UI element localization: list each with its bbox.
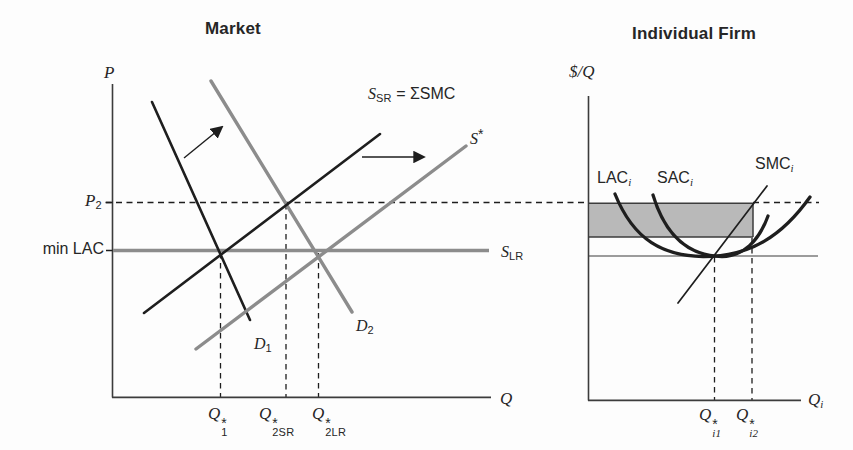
market-y-ticks bbox=[106, 203, 113, 251]
market-panel bbox=[106, 81, 589, 397]
market-axes bbox=[112, 84, 491, 397]
q2sr-label: Q*2SR bbox=[259, 405, 294, 438]
d1-label: D1 bbox=[254, 335, 272, 354]
firm-title: Individual Firm bbox=[614, 25, 774, 44]
sac-label: SACi bbox=[657, 169, 693, 188]
firm-x-axis-label: Qi bbox=[808, 391, 824, 410]
q1-label: Q*1 bbox=[208, 405, 228, 438]
d1-curve bbox=[152, 102, 250, 320]
slr-label: SLR bbox=[501, 243, 523, 262]
lac-label: LACi bbox=[597, 169, 631, 188]
q2lr-label: Q*2LR bbox=[312, 405, 346, 438]
firm-y-axis-label: $/Q bbox=[569, 63, 595, 82]
firm-panel bbox=[588, 96, 819, 400]
smc-label: SMCi bbox=[755, 155, 794, 174]
s-star-label: S* bbox=[470, 127, 483, 148]
firm-axes bbox=[588, 96, 801, 400]
long-run-equilibrium-figure: Market Individual Firm P Q P2 min LAC SS… bbox=[0, 0, 853, 450]
diagram-canvas bbox=[0, 0, 853, 450]
s-star-curve bbox=[196, 146, 466, 349]
demand-shift-arrow bbox=[184, 127, 222, 158]
market-title: Market bbox=[188, 20, 278, 39]
market-x-axis-label: Q bbox=[500, 390, 512, 409]
ssr-smc-label: SSR = ΣSMC bbox=[368, 85, 455, 104]
min-lac-label: min LAC bbox=[28, 240, 104, 258]
qi2-label: Q*i2 bbox=[736, 406, 758, 439]
market-y-axis-label: P bbox=[104, 64, 114, 83]
p2-label: P2 bbox=[85, 192, 102, 211]
qi1-label: Q*i1 bbox=[699, 406, 721, 439]
d2-label: D2 bbox=[356, 317, 374, 336]
